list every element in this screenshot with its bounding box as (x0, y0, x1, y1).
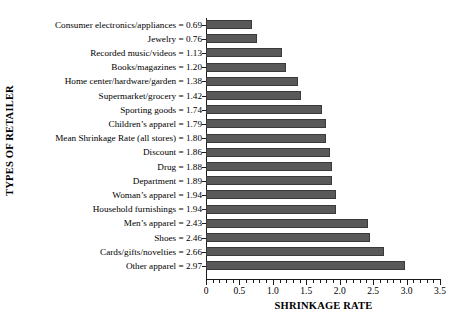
x-axis-tick-label: 0 (204, 286, 209, 296)
bar (206, 261, 405, 270)
shrinkage-rate-bar-chart: TYPES OF RETAILER Consumer electronics/a… (0, 0, 465, 323)
plot-area (206, 18, 440, 279)
x-axis-tick-label: 0.5 (233, 286, 245, 296)
x-axis-minor-tick (346, 280, 347, 283)
category-label: Other apparel = 2.97 (6, 262, 202, 271)
x-axis-minor-tick (213, 280, 214, 283)
y-axis-tick (202, 39, 206, 40)
category-label: Mean Shrinkage Rate (all stores) = 1.80 (6, 134, 202, 143)
category-label: Books/magazines = 1.20 (6, 63, 202, 72)
y-axis-tick (202, 110, 206, 111)
bar (206, 176, 332, 185)
category-label: Sporting goods = 1.74 (6, 106, 202, 115)
category-label: Household furnishings = 1.94 (6, 205, 202, 214)
bar (206, 105, 322, 114)
category-label: Recorded music/videos = 1.13 (6, 49, 202, 58)
x-axis-tick-label: 2.5 (367, 286, 379, 296)
x-axis-minor-tick (300, 280, 301, 283)
category-label: Children’s apparel = 1.79 (6, 120, 202, 129)
y-axis-tick (202, 138, 206, 139)
x-axis-minor-tick (333, 280, 334, 283)
x-axis-minor-tick (420, 280, 421, 283)
y-axis-tick (202, 195, 206, 196)
bar (206, 119, 326, 128)
category-label: Department = 1.89 (6, 177, 202, 186)
bar (206, 77, 298, 86)
category-label: Woman’s apparel = 1.94 (6, 191, 202, 200)
x-axis-tick-label: 3.0 (401, 286, 413, 296)
x-axis-minor-tick (433, 280, 434, 283)
x-axis-major-tick (306, 280, 307, 285)
x-axis-minor-tick (366, 280, 367, 283)
bar (206, 20, 252, 29)
x-axis-minor-tick (293, 280, 294, 283)
category-label: Consumer electronics/appliances = 0.69 (6, 21, 202, 30)
category-label: Cards/gifts/novelties = 2.66 (6, 248, 202, 257)
x-axis-major-tick (373, 280, 374, 285)
category-label: Jewelry = 0.76 (6, 35, 202, 44)
bar (206, 162, 332, 171)
x-axis-minor-tick (393, 280, 394, 283)
bar (206, 219, 368, 228)
x-axis-major-tick (407, 280, 408, 285)
x-axis-tick-label: 2.0 (334, 286, 346, 296)
category-label: Supermarket/grocery = 1.42 (6, 92, 202, 101)
x-axis-minor-tick (320, 280, 321, 283)
x-axis-title: SHRINKAGE RATE (206, 300, 441, 311)
y-axis-tick (202, 181, 206, 182)
x-axis-minor-tick (226, 280, 227, 283)
x-axis-minor-tick (253, 280, 254, 283)
y-axis-tick (202, 152, 206, 153)
x-axis-major-tick (440, 280, 441, 285)
bar (206, 205, 336, 214)
x-axis-minor-tick (219, 280, 220, 283)
x-axis-major-tick (340, 280, 341, 285)
x-axis-minor-tick (360, 280, 361, 283)
y-axis-tick (202, 25, 206, 26)
y-axis-tick (202, 53, 206, 54)
x-axis-minor-tick (427, 280, 428, 283)
x-axis-major-tick (273, 280, 274, 285)
category-label: Drug = 1.88 (6, 163, 202, 172)
y-axis-tick (202, 209, 206, 210)
bar (206, 148, 330, 157)
x-axis-minor-tick (266, 280, 267, 283)
bar (206, 48, 282, 57)
bar (206, 91, 301, 100)
x-axis-major-tick (206, 280, 207, 285)
x-axis-minor-tick (326, 280, 327, 283)
y-axis-tick (202, 167, 206, 168)
y-axis-tick (202, 252, 206, 253)
x-axis-minor-tick (400, 280, 401, 283)
x-axis-minor-tick (413, 280, 414, 283)
x-axis-minor-tick (380, 280, 381, 283)
y-axis-tick (202, 124, 206, 125)
x-axis-minor-tick (286, 280, 287, 283)
category-label: Men’s apparel = 2.43 (6, 219, 202, 228)
bar (206, 233, 370, 242)
x-axis-minor-tick (313, 280, 314, 283)
y-axis-tick (202, 238, 206, 239)
bar (206, 190, 336, 199)
x-axis-minor-tick (233, 280, 234, 283)
y-axis-tick (202, 266, 206, 267)
x-axis-major-tick (239, 280, 240, 285)
x-axis-minor-tick (259, 280, 260, 283)
x-axis-minor-tick (246, 280, 247, 283)
bar (206, 247, 384, 256)
y-axis-tick (202, 223, 206, 224)
bar (206, 34, 257, 43)
y-axis-tick (202, 96, 206, 97)
x-axis-minor-tick (280, 280, 281, 283)
y-axis-tick (202, 67, 206, 68)
bar (206, 134, 326, 143)
category-label: Discount = 1.86 (6, 148, 202, 157)
category-label: Home center/hardware/garden = 1.38 (6, 77, 202, 86)
category-label: Shoes = 2.46 (6, 234, 202, 243)
x-axis-minor-tick (353, 280, 354, 283)
y-axis-tick (202, 81, 206, 82)
x-axis-tick-label: 1.5 (300, 286, 312, 296)
x-axis-tick-label: 1.0 (267, 286, 279, 296)
category-label-list: Consumer electronics/appliances = 0.69Je… (4, 0, 202, 323)
x-axis-minor-tick (387, 280, 388, 283)
